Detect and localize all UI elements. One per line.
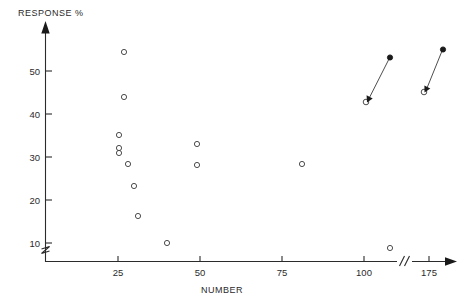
plot-canvas: 50 40 30 20 10 25 50 75 100 175 RESPONSE…	[0, 0, 462, 300]
scatter-plot-figure: 50 40 30 20 10 25 50 75 100 175 RESPONSE…	[0, 0, 462, 300]
arrow-shaft	[370, 59, 390, 98]
x-axis-break-mark	[400, 256, 410, 266]
data-point-open[interactable]	[121, 94, 126, 99]
data-point-open[interactable]	[135, 213, 140, 218]
y-tick-label-50: 50	[29, 66, 40, 77]
arrow-annotation-2	[424, 51, 442, 93]
data-point-open[interactable]	[121, 49, 126, 54]
y-axis-group	[41, 21, 49, 262]
data-point-open[interactable]	[116, 145, 121, 150]
arrow-annotation-1	[367, 59, 389, 103]
y-axis-title: RESPONSE %	[18, 8, 84, 18]
x-tick-label-75: 75	[277, 267, 288, 278]
arrow-shaft	[427, 51, 442, 88]
x-tick-label-25: 25	[113, 267, 124, 278]
data-point-open[interactable]	[194, 162, 199, 167]
open-circle-series	[116, 49, 426, 250]
y-axis-break-mark	[42, 247, 50, 254]
data-point-filled[interactable]	[387, 55, 392, 60]
y-tick-label-30: 30	[29, 152, 40, 163]
data-point-open[interactable]	[125, 161, 130, 166]
data-point-open[interactable]	[164, 240, 169, 245]
data-point-open[interactable]	[299, 161, 304, 166]
x-tick-label-175: 175	[421, 267, 437, 278]
data-point-open[interactable]	[194, 141, 199, 146]
x-tick-label-50: 50	[195, 267, 206, 278]
x-axis-arrowhead	[445, 257, 457, 266]
x-tick-labels: 25 50 75 100 175	[113, 267, 437, 278]
data-point-open[interactable]	[116, 132, 121, 137]
x-tick-marks	[118, 256, 429, 262]
y-tick-labels: 50 40 30 20 10	[29, 66, 40, 249]
x-axis-group	[42, 247, 458, 267]
data-point-filled[interactable]	[440, 47, 445, 52]
x-tick-label-100: 100	[356, 267, 372, 278]
data-point-open[interactable]	[131, 183, 136, 188]
data-point-open[interactable]	[116, 150, 121, 155]
data-point-open[interactable]	[387, 245, 392, 250]
y-tick-label-40: 40	[29, 109, 40, 120]
y-tick-marks	[46, 71, 53, 243]
y-axis-arrowhead	[41, 21, 49, 34]
y-tick-label-20: 20	[29, 195, 40, 206]
filled-circle-series	[387, 47, 445, 60]
x-axis-title: NUMBER	[201, 285, 243, 295]
y-tick-label-10: 10	[29, 238, 40, 249]
